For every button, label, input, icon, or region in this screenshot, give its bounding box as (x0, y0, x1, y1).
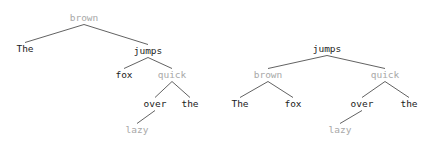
tree-edge (385, 82, 409, 98)
tree-node-brown[interactable]: brown (254, 70, 283, 80)
tree-edge (137, 111, 155, 124)
tree-node-jumps[interactable]: jumps (313, 44, 342, 54)
tree-edge (172, 82, 190, 98)
tree-edge (155, 82, 172, 98)
tree-node-fox[interactable]: fox (115, 70, 132, 80)
tree-edges-layer (0, 0, 430, 146)
tree-node-the[interactable]: The (16, 44, 33, 54)
tree-node-jumps[interactable]: jumps (134, 46, 163, 56)
tree-edge (148, 58, 172, 69)
tree-edge (25, 25, 84, 43)
tree-node-over[interactable]: over (144, 99, 167, 109)
tree-node-the[interactable]: the (181, 99, 198, 109)
tree-edge (327, 56, 385, 69)
tree-edge (268, 56, 327, 69)
tree-node-quick[interactable]: quick (158, 70, 187, 80)
tree-node-over[interactable]: over (351, 99, 374, 109)
tree-node-the[interactable]: The (231, 99, 248, 109)
tree-edge (268, 82, 293, 98)
tree-edge (362, 82, 385, 98)
tree-node-quick[interactable]: quick (371, 70, 400, 80)
tree-edge (240, 82, 268, 98)
tree-edge (124, 58, 148, 69)
tree-node-brown[interactable]: brown (70, 13, 99, 23)
tree-edge (340, 111, 362, 124)
tree-node-lazy[interactable]: lazy (126, 125, 149, 135)
tree-node-fox[interactable]: fox (284, 99, 301, 109)
tree-node-lazy[interactable]: lazy (329, 125, 352, 135)
diagram-canvas: brownThejumpsfoxquickoverthelazyjumpsbro… (0, 0, 430, 146)
tree-node-the[interactable]: the (400, 99, 417, 109)
tree-edge (84, 25, 148, 45)
